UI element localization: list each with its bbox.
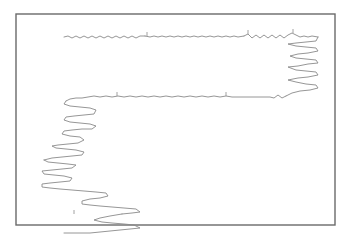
left-zigzag-upper [44,101,96,160]
top-strand-wavy-right [244,33,318,38]
middle-strand [66,95,286,101]
left-zigzag-lower [42,160,140,214]
right-zigzag [286,37,318,96]
bottom-tail [64,214,140,233]
top-strand-fine [145,36,244,37]
residue-tick-marks [74,29,293,214]
top-strand-wavy-left [64,36,145,38]
chain-trace [42,33,318,233]
chain-diagram [0,0,349,238]
